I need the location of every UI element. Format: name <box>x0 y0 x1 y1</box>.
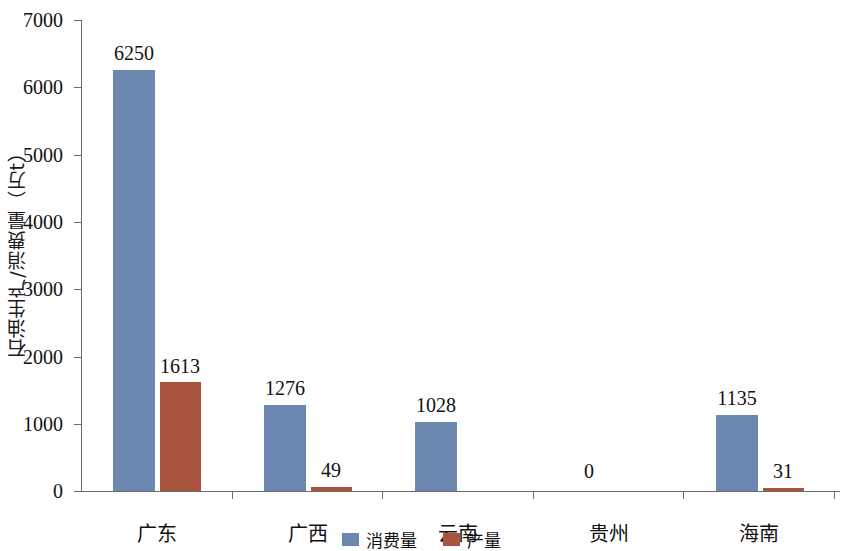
plot-area: 7000 6000 5000 4000 3000 2000 1000 0 <box>81 20 840 492</box>
y-tick-label-7000: 7000 <box>23 9 63 32</box>
y-tick-6000: 6000 <box>74 87 81 88</box>
bar-label-guangxi-production: 49 <box>321 459 341 482</box>
x-tick-4 <box>683 491 684 499</box>
y-axis-title-text: 石油生产/消费量（万t） <box>3 142 30 358</box>
legend-item-production: 产量 <box>443 527 501 551</box>
legend-label-consumption: 消费量 <box>366 527 417 551</box>
legend-label-production: 产量 <box>467 527 501 551</box>
legend-item-consumption: 消费量 <box>342 527 417 551</box>
y-tick-1000: 1000 <box>74 424 81 425</box>
bar-chart: 石油生产/消费量（万t） 7000 6000 5000 4000 3000 20… <box>0 0 842 551</box>
bar-yunnan-consumption <box>415 422 457 491</box>
y-tick-label-4000: 4000 <box>23 211 63 234</box>
bar-label-hainan-consumption: 1135 <box>717 387 756 410</box>
x-tick-5 <box>834 491 835 499</box>
legend-swatch-production-icon <box>443 533 460 546</box>
x-tick-3 <box>533 491 534 499</box>
bar-guangdong-production <box>160 382 201 491</box>
y-tick-7000: 7000 <box>74 20 81 21</box>
bar-hainan-production <box>763 488 804 491</box>
y-tick-label-5000: 5000 <box>23 144 63 167</box>
y-tick-label-6000: 6000 <box>23 76 63 99</box>
y-tick-4000: 4000 <box>74 222 81 223</box>
y-tick-label-3000: 3000 <box>23 278 63 301</box>
bar-hainan-consumption <box>716 415 758 491</box>
y-tick-2000: 2000 <box>74 357 81 358</box>
bar-label-guangdong-consumption: 6250 <box>114 42 154 65</box>
bar-label-hainan-production: 31 <box>773 460 793 483</box>
y-tick-label-1000: 1000 <box>23 413 63 436</box>
y-tick-label-0: 0 <box>53 480 63 503</box>
chart-legend: 消费量 产量 <box>0 527 842 551</box>
bar-label-guangdong-production: 1613 <box>160 355 200 378</box>
bar-guangxi-consumption <box>264 405 306 491</box>
x-tick-1 <box>232 491 233 499</box>
bar-label-guizhou-zero: 0 <box>584 460 594 483</box>
y-tick-label-2000: 2000 <box>23 346 63 369</box>
legend-swatch-consumption-icon <box>342 533 359 546</box>
y-axis-line <box>81 20 82 492</box>
y-tick-0: 0 <box>74 491 81 492</box>
y-tick-5000: 5000 <box>74 155 81 156</box>
bar-guangxi-production <box>311 487 352 491</box>
bar-label-guangxi-consumption: 1276 <box>265 377 305 400</box>
bar-guangdong-consumption <box>113 70 155 491</box>
y-tick-3000: 3000 <box>74 289 81 290</box>
x-tick-2 <box>382 491 383 499</box>
x-axis-line <box>81 491 840 492</box>
bar-label-yunnan-consumption: 1028 <box>416 394 456 417</box>
